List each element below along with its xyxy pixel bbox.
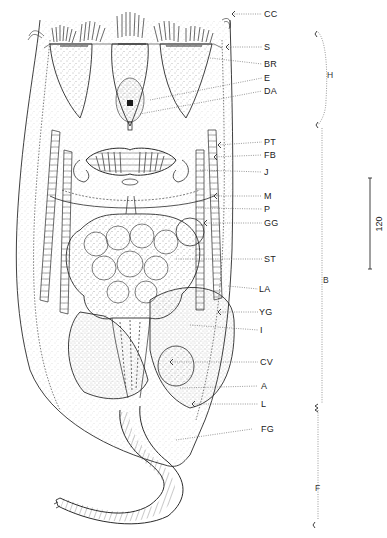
scale-bar: [368, 178, 372, 269]
label-j: J: [264, 167, 269, 177]
eyespot: [127, 100, 133, 106]
label-e: E: [264, 73, 270, 83]
label-fb: FB: [264, 150, 276, 160]
scale-bar-value: 120: [374, 216, 384, 231]
label-cc: CC: [264, 9, 277, 19]
label-l: L: [261, 399, 266, 409]
label-da: DA: [264, 86, 277, 96]
label-yg: YG: [259, 307, 272, 317]
region-label-head: H: [327, 70, 333, 80]
label-gg: GG: [264, 218, 278, 228]
label-i: I: [260, 325, 263, 335]
contractile-vesicle: [158, 346, 194, 386]
label-s: S: [264, 42, 270, 52]
label-m: M: [264, 191, 272, 201]
label-st: ST: [264, 254, 276, 264]
label-la: LA: [259, 284, 270, 294]
label-fg: FG: [261, 424, 274, 434]
region-label-body: B: [323, 275, 329, 285]
bracket-ticks: [313, 31, 318, 528]
label-pt: PT: [264, 137, 276, 147]
label-a: A: [261, 381, 267, 391]
rotifer-anatomical-drawing: [0, 0, 387, 538]
label-cv: CV: [260, 357, 273, 367]
region-label-foot: F: [315, 483, 320, 493]
label-p: P: [264, 204, 270, 214]
label-br: BR: [264, 59, 277, 69]
